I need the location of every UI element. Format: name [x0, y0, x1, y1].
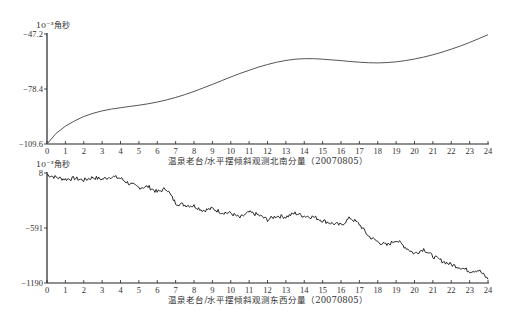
x-tick-label: 3 [100, 285, 104, 295]
x-tick-label: 14 [300, 285, 309, 295]
x-tick-label: 10 [227, 146, 236, 156]
x-tick-label: 4 [118, 285, 123, 295]
x-tick-label: 8 [192, 146, 196, 156]
x-tick-label: 19 [392, 146, 401, 156]
x-ticks-bottom: 0123456789101112131415161718192021222324 [45, 280, 493, 295]
x-tick-label: 22 [447, 146, 456, 156]
y-tick-label: −78.4 [23, 84, 43, 94]
x-tick-label: 15 [318, 285, 327, 295]
y-tick-label: 8 [39, 168, 43, 178]
series-line-east-west [47, 175, 488, 280]
x-axis-caption-bottom: 温泉老台/水平摆倾斜观测东西分量（20070805） [168, 295, 367, 305]
x-tick-label: 24 [484, 146, 493, 156]
x-tick-label: 6 [155, 285, 159, 295]
x-tick-label: 9 [210, 285, 214, 295]
y-tick-label: −109.6 [19, 139, 43, 149]
chart-canvas: 10⁻³角秒 −47.2−78.4−109.6 0123456789101112… [0, 0, 506, 317]
x-tick-label: 8 [192, 285, 196, 295]
x-tick-label: 24 [484, 285, 493, 295]
y-ticks-bottom: 8−591−1190 [22, 168, 47, 288]
y-ticks-top: −47.2−78.4−109.6 [19, 29, 47, 149]
x-tick-label: 20 [410, 146, 419, 156]
x-tick-label: 11 [245, 285, 253, 295]
x-tick-label: 1 [63, 285, 67, 295]
x-tick-label: 18 [374, 146, 383, 156]
y-tick-label: −1190 [22, 278, 43, 288]
x-tick-label: 4 [118, 146, 123, 156]
x-tick-label: 16 [337, 146, 346, 156]
x-tick-label: 13 [282, 146, 291, 156]
x-tick-label: 2 [82, 146, 86, 156]
x-tick-label: 19 [392, 285, 401, 295]
x-tick-label: 15 [318, 146, 327, 156]
x-tick-label: 12 [263, 285, 272, 295]
x-tick-label: 17 [355, 146, 364, 156]
x-tick-label: 5 [137, 285, 141, 295]
x-tick-label: 21 [429, 146, 438, 156]
x-tick-label: 1 [63, 146, 67, 156]
x-tick-label: 7 [174, 285, 178, 295]
x-tick-label: 10 [227, 285, 236, 295]
x-tick-label: 21 [429, 285, 438, 295]
x-tick-label: 12 [263, 146, 272, 156]
x-tick-label: 22 [447, 285, 456, 295]
series-line-north-south [47, 35, 488, 144]
x-tick-label: 17 [355, 285, 364, 295]
y-tick-label: −591 [25, 223, 43, 233]
x-ticks-top: 0123456789101112131415161718192021222324 [45, 141, 493, 156]
x-tick-label: 5 [137, 146, 141, 156]
x-tick-label: 3 [100, 146, 104, 156]
x-tick-label: 20 [410, 285, 419, 295]
x-tick-label: 6 [155, 146, 159, 156]
x-tick-label: 13 [282, 285, 291, 295]
y-tick-label: −47.2 [23, 29, 43, 39]
x-tick-label: 7 [174, 146, 178, 156]
x-axis-caption-top: 温泉老台/水平摆倾斜观测北南分量（20070805） [168, 156, 367, 166]
x-tick-label: 23 [465, 285, 474, 295]
x-tick-label: 16 [337, 285, 346, 295]
x-tick-label: 23 [465, 146, 474, 156]
chart-north-south: 10⁻³角秒 −47.2−78.4−109.6 0123456789101112… [19, 20, 493, 166]
chart-east-west: 10⁻³角秒 8−591−1190 0123456789101112131415… [22, 159, 493, 305]
x-tick-label: 9 [210, 146, 214, 156]
x-tick-label: 14 [300, 146, 309, 156]
x-tick-label: 18 [374, 285, 383, 295]
x-tick-label: 2 [82, 285, 86, 295]
x-tick-label: 0 [45, 146, 49, 156]
x-tick-label: 0 [45, 285, 49, 295]
x-tick-label: 11 [245, 146, 253, 156]
